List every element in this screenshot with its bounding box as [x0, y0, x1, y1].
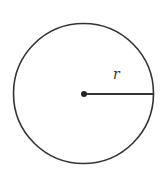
center-point [81, 91, 87, 97]
radius-label: r [113, 66, 121, 82]
circle-diagram: r [0, 0, 164, 173]
